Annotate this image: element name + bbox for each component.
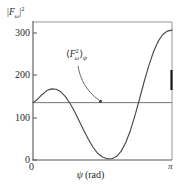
data-curve (33, 30, 172, 159)
y-tick-label-300: 300 (6, 28, 30, 38)
annotation-arrowhead (99, 100, 102, 103)
y-tick-label-100: 100 (6, 113, 30, 123)
chart-figure: |Fω|2 300 200 100 0 0 π ψ(rad) ⟨F2ω⟩ψ (0, 0, 181, 187)
annotation-subscript-psi: ψ (83, 54, 87, 61)
y-tick-label-200: 200 (6, 70, 30, 80)
y-label-exponent: 2 (21, 5, 24, 12)
y-axis-label: |Fω|2 (7, 8, 24, 18)
x-label-psi: ψ (77, 169, 83, 180)
x-label-unit: (rad) (85, 169, 104, 180)
x-axis-label: ψ(rad) (0, 170, 181, 180)
average-annotation-label: ⟨F2ω⟩ψ (66, 50, 87, 60)
annotation-arrow (78, 66, 99, 100)
y-tick-label-0: 0 (6, 155, 30, 165)
